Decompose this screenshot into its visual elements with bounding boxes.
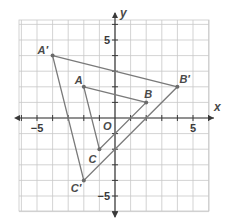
vertex-label: B′ <box>179 73 191 85</box>
y-axis-arrow-up-icon <box>112 12 118 18</box>
x-tick-label: −5 <box>31 122 44 134</box>
vertex-point <box>144 100 148 104</box>
x-tick-label: 5 <box>190 122 196 134</box>
y-axis-arrow-down-icon <box>112 212 118 218</box>
y-tick-label: −5 <box>97 190 110 202</box>
vertex-label: A <box>74 74 83 86</box>
y-tick-label: 5 <box>104 34 110 46</box>
vertex-label: B <box>144 88 152 100</box>
origin-label: O <box>103 120 112 132</box>
vertex-point <box>97 147 101 151</box>
vertex-point <box>82 178 86 182</box>
vertex-label: A′ <box>37 44 50 56</box>
x-axis-label: x <box>213 100 222 114</box>
vertex-point <box>175 85 179 89</box>
vertex-label: C′ <box>71 182 83 194</box>
x-axis-arrow-left-icon <box>14 115 20 121</box>
vertex-point <box>51 54 55 58</box>
vertex-label: C <box>88 153 97 165</box>
coordinate-plane: xyO−555−5ABCA′B′C′ <box>0 0 227 222</box>
y-axis-label: y <box>119 6 128 20</box>
